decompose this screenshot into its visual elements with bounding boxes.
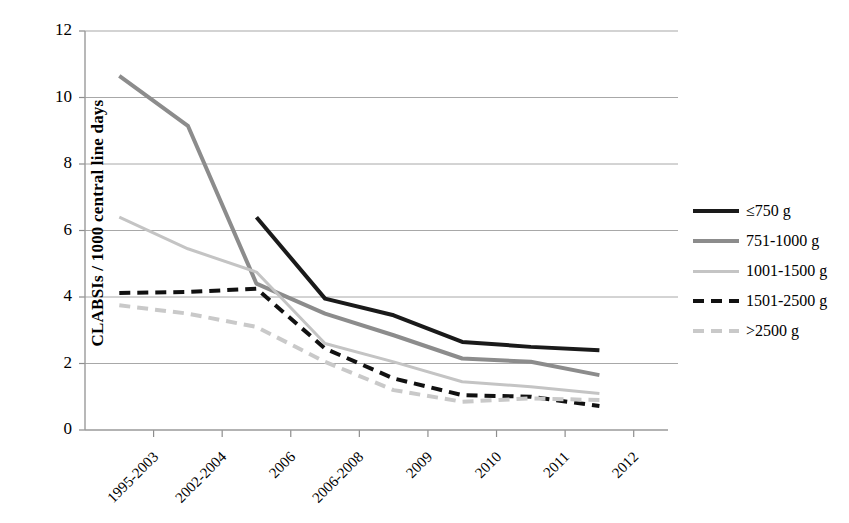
y-tick-label: 4	[38, 286, 72, 306]
legend-swatch-icon	[693, 204, 739, 218]
gridlines	[79, 31, 678, 430]
y-tick-label: 8	[38, 153, 72, 173]
y-tick-label: 12	[38, 20, 72, 40]
legend-swatch-icon	[693, 294, 739, 308]
legend-item[interactable]: 1501-2500 g	[693, 286, 827, 316]
legend-item[interactable]: 751-1000 g	[693, 226, 827, 256]
legend-item[interactable]: ≤750 g	[693, 196, 827, 226]
y-tick-label: 0	[38, 419, 72, 439]
series-line	[256, 217, 599, 350]
legend-swatch-icon	[693, 324, 739, 338]
legend: ≤750 g751-1000 g1001-1500 g1501-2500 g>2…	[693, 196, 827, 346]
legend-swatch-icon	[693, 264, 739, 278]
legend-label: ≤750 g	[746, 202, 791, 220]
y-tick-label: 6	[38, 220, 72, 240]
legend-label: >2500 g	[746, 322, 799, 340]
series-line	[119, 76, 599, 375]
legend-item[interactable]: 1001-1500 g	[693, 256, 827, 286]
y-axis-title: CLABSIs / 1000 central line days	[88, 13, 108, 433]
x-axis-ticks	[154, 430, 634, 437]
data-series-group	[119, 76, 599, 406]
legend-item[interactable]: >2500 g	[693, 316, 827, 346]
legend-swatch-icon	[693, 234, 739, 248]
legend-label: 1001-1500 g	[746, 262, 827, 280]
y-tick-label: 2	[38, 353, 72, 373]
legend-label: 1501-2500 g	[746, 292, 827, 310]
y-tick-label: 10	[38, 87, 72, 107]
legend-label: 751-1000 g	[746, 232, 819, 250]
line-chart: CLABSIs / 1000 central line days 1210864…	[0, 0, 849, 523]
